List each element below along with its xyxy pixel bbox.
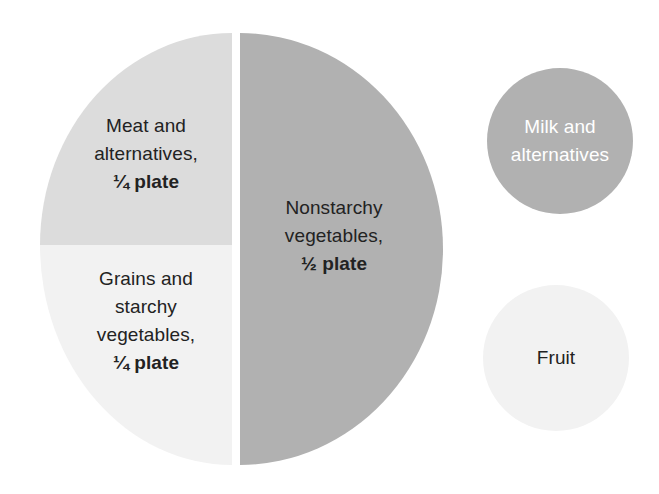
label-meat-line-2: alternatives,: [60, 140, 232, 168]
label-grains-line-1: Grains and: [58, 265, 234, 293]
side-item-fruit-label: Fruit: [491, 344, 621, 372]
plate-method-diagram: Meat and alternatives, ¼ plate Grains an…: [0, 0, 659, 494]
label-nonstarchy-vegetables: Nonstarchy vegetables, ½ plate: [248, 194, 420, 278]
label-meat-portion: ¼ plate: [60, 168, 232, 196]
label-grains-and-starchy-vegetables: Grains and starchy vegetables, ¼ plate: [58, 265, 234, 377]
label-veg-line-1: Nonstarchy: [248, 194, 420, 222]
label-veg-line-2: vegetables,: [248, 222, 420, 250]
label-grains-line-2: starchy: [58, 293, 234, 321]
label-veg-portion: ½ plate: [248, 250, 420, 278]
side-item-milk-label: Milk and alternatives: [490, 113, 630, 169]
side-item-fruit[interactable]: Fruit: [483, 285, 629, 431]
label-grains-portion: ¼ plate: [58, 349, 234, 377]
label-grains-line-3: vegetables,: [58, 321, 234, 349]
label-meat-and-alternatives: Meat and alternatives, ¼ plate: [60, 112, 232, 196]
side-item-milk-and-alternatives[interactable]: Milk and alternatives: [487, 68, 633, 214]
label-meat-line-1: Meat and: [60, 112, 232, 140]
